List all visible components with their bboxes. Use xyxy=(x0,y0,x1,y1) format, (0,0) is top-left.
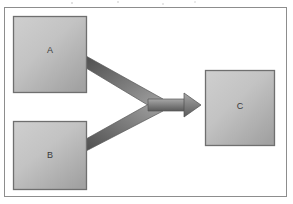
merge-flow-diagram: A B C xyxy=(0,0,293,204)
node-a-label: A xyxy=(47,45,53,55)
node-b[interactable]: B xyxy=(14,122,87,190)
node-c-label: C xyxy=(237,101,244,111)
merge-arrow-connector xyxy=(86,56,201,151)
merge-arrow-shaft xyxy=(148,99,186,111)
node-b-label: B xyxy=(47,150,53,160)
merge-arrow-head xyxy=(184,93,201,117)
node-c[interactable]: C xyxy=(206,71,275,146)
node-a[interactable]: A xyxy=(14,17,87,93)
